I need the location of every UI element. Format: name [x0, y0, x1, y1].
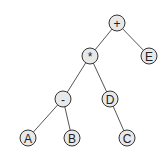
node-plus: + [109, 15, 125, 31]
node-label: + [113, 17, 120, 31]
node-label: D [106, 93, 115, 107]
node-star: * [82, 48, 98, 64]
node-label: A [24, 132, 32, 146]
node-label: C [123, 132, 132, 146]
expression-tree: +*E-DABC [0, 0, 167, 157]
node-E: E [141, 48, 157, 64]
node-D: D [102, 91, 118, 107]
node-label: * [88, 50, 93, 64]
node-A: A [20, 130, 36, 146]
node-label: B [68, 132, 76, 146]
node-minus: - [55, 91, 71, 107]
node-label: E [145, 50, 153, 64]
node-label: - [61, 93, 65, 107]
node-C: C [119, 130, 135, 146]
node-B: B [64, 130, 80, 146]
